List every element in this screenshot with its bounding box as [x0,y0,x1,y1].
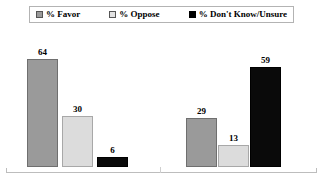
legend-label-dont-know: % Don't Know/Unsure [199,10,287,19]
x-axis-line [6,172,317,173]
bar-group1-oppose [62,116,93,167]
bar-label-group1-oppose: 30 [62,104,93,114]
plot-area: 64 30 6 29 13 59 [0,26,323,167]
bar-label-group1-favor: 64 [27,47,58,57]
x-axis-right-cap [316,168,317,173]
bar-label-group2-favor: 29 [186,106,217,116]
legend-label-favor: % Favor [46,10,80,19]
legend-item-favor: % Favor [36,10,80,19]
chart-legend: % Favor % Oppose % Don't Know/Unsure [29,6,294,23]
legend-item-oppose: % Oppose [109,10,159,19]
bar-group2-favor [186,118,217,167]
legend-label-oppose: % Oppose [119,10,159,19]
bar-group2-dont-know [250,67,281,167]
legend-item-dont-know: % Don't Know/Unsure [189,10,287,19]
x-axis-left-cap [6,168,7,173]
bar-group2-oppose [218,145,249,167]
bar-chart: % Favor % Oppose % Don't Know/Unsure 64 … [0,0,323,179]
oppose-swatch-icon [109,11,116,18]
x-axis-group-divider [160,167,161,173]
bar-group1-favor [27,59,58,167]
bar-label-group1-dont-know: 6 [97,145,128,155]
bar-group1-dont-know [97,157,128,167]
favor-swatch-icon [36,11,43,18]
dont-know-swatch-icon [189,11,196,18]
bar-label-group2-dont-know: 59 [250,55,281,65]
bar-label-group2-oppose: 13 [218,133,249,143]
